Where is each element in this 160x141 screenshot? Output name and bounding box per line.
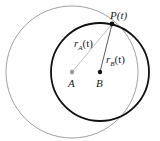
point-a-dot xyxy=(70,70,74,74)
ra-tail: (t) xyxy=(83,37,93,49)
point-p-dot xyxy=(110,22,115,27)
point-a-label: A xyxy=(68,78,75,89)
point-b-text: B xyxy=(96,77,103,89)
point-p-label: P(t) xyxy=(110,10,127,21)
point-a-text: A xyxy=(68,77,75,89)
segment-a-label: rA(t) xyxy=(74,38,93,52)
circles-figure xyxy=(0,0,160,141)
point-b-dot xyxy=(98,70,102,74)
diagram-canvas: P(t) rA(t) rB(t) A B xyxy=(0,0,160,141)
point-b-label: B xyxy=(96,78,103,89)
segment-b-label: rB(t) xyxy=(106,54,125,68)
rb-tail: (t) xyxy=(115,53,125,65)
point-p-text: P(t) xyxy=(110,9,127,21)
